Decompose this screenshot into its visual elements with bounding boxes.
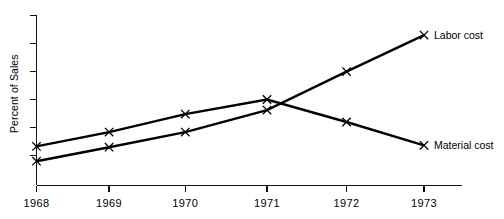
series-label-labor-cost: Labor cost bbox=[434, 29, 483, 41]
x-axis-tick-labels: 1968 1969 1970 1971 1972 1973 bbox=[23, 197, 437, 209]
series-markers-material-cost bbox=[32, 95, 428, 150]
x-tick-label-1972: 1972 bbox=[333, 197, 359, 209]
series-markers-labor-cost bbox=[32, 31, 428, 166]
chart-canvas: Percent of Sales 1968 1969 1970 bbox=[0, 0, 504, 219]
line-chart: Percent of Sales 1968 1969 1970 bbox=[0, 0, 504, 219]
y-axis-ticks bbox=[30, 16, 37, 156]
series-line-material-cost bbox=[37, 100, 425, 147]
x-axis-ticks bbox=[37, 186, 425, 193]
x-tick-label-1969: 1969 bbox=[96, 197, 122, 209]
y-axis-title: Percent of Sales bbox=[8, 54, 20, 133]
x-tick-label-1971: 1971 bbox=[254, 197, 280, 209]
x-tick-label-1968: 1968 bbox=[23, 197, 49, 209]
series-label-material-cost: Material cost bbox=[434, 139, 494, 151]
x-tick-label-1973: 1973 bbox=[411, 197, 437, 209]
x-tick-label-1970: 1970 bbox=[172, 197, 198, 209]
series-line-labor-cost bbox=[37, 35, 425, 161]
